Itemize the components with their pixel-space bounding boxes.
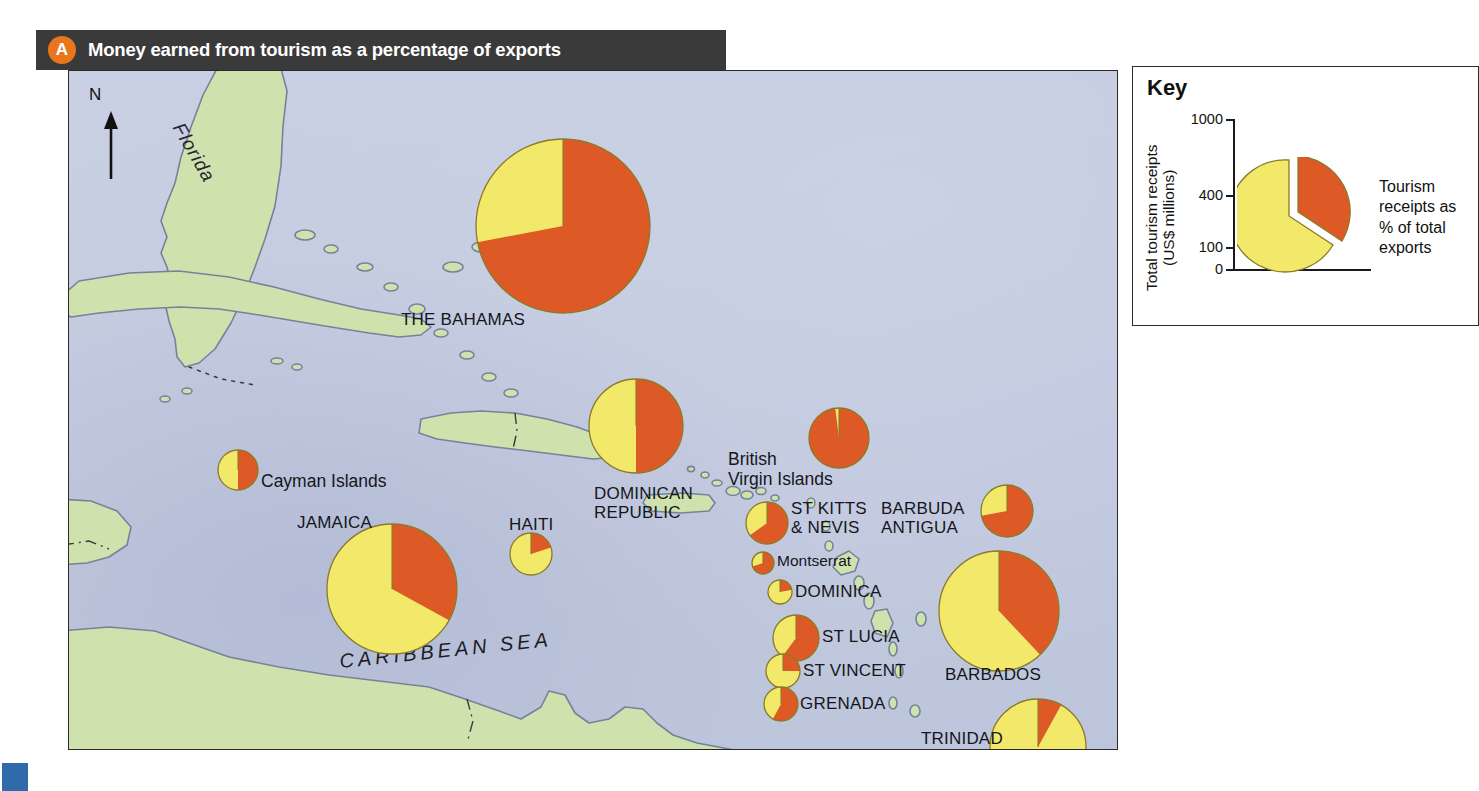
pie-cayman-islands [215,447,261,493]
pie-red-slice [238,450,258,490]
key-tick-1000 [1226,119,1235,121]
place-label-barbuda-antigua: BARBUDA ANTIGUA [881,499,965,538]
place-label-cayman-islands: Cayman Islands [261,472,386,492]
island-dot [504,389,518,397]
island-dot [434,329,448,337]
island-dot [295,230,315,240]
island-dot [324,245,338,253]
map-frame: N Florida CARIBBEAN SEA THE BAHAMASDOMIN… [68,70,1118,750]
key-tick-400 [1226,195,1235,197]
place-label-montserrat: Montserrat [777,552,851,570]
pie-st-kitts-nevis [743,499,791,547]
place-label-grenada: GRENADA [800,694,885,713]
key-ticklabel-0: 0 [1179,261,1223,277]
island-dot [916,612,926,626]
north-label: N [89,85,101,105]
figure-root: A Money earned from tourism as a percent… [0,0,1479,791]
key-axis-label: Total tourism receipts (US$ millions) [1143,123,1169,313]
place-label-the-bahamas: THE BAHAMAS [401,310,525,329]
island-dot [701,472,709,478]
island-dot [443,262,463,272]
pie-barbados [936,548,1062,674]
island-dot [357,263,373,271]
cuba-land [69,271,431,337]
key-panel: Key Total tourism receipts (US$ millions… [1132,66,1479,326]
key-title: Key [1147,75,1187,101]
page-corner-marker [2,763,28,791]
pie-jamaica [324,521,460,657]
place-label-trinidad-tobago: TRINIDAD & TOBAGO [921,729,1011,750]
island-dot [889,697,897,709]
place-label-haiti: HAITI [509,515,553,534]
island-dot [825,541,833,551]
island-dot [271,358,283,364]
island-dot [910,705,920,717]
island-dot [460,351,474,359]
florida-keys-dots [189,367,255,385]
island-dot [741,491,753,499]
island-dot [182,388,192,394]
figure-title-bar: A Money earned from tourism as a percent… [36,30,726,70]
pie-barbuda-antigua [978,482,1036,540]
place-label-jamaica: JAMAICA [297,513,372,532]
place-label-dominica: DOMINICA [795,582,882,601]
pie-haiti [507,530,555,578]
place-label-st-lucia: ST LUCIA [822,627,900,646]
island-dot [384,283,398,291]
central-america-land [69,499,131,565]
key-axis-label-line1: Total tourism receipts [1143,145,1160,291]
page-title: Money earned from tourism as a percentag… [88,39,561,61]
place-label-british-virgin-islands: British Virgin Islands [728,450,833,490]
pie-dominican-republic [586,376,686,476]
key-ticklabel-1000: 1000 [1179,111,1223,127]
place-label-st-vincent: ST VINCENT [803,661,906,680]
pie-montserrat [749,549,777,577]
place-label-dominican-republic: DOMINICAN REPUBLIC [594,484,693,523]
key-pie-sample [1237,157,1373,275]
island-dot [160,396,170,402]
key-ticklabel-100: 100 [1179,239,1223,255]
island-dot [292,364,302,370]
north-arrow-icon [91,101,131,181]
pie-the-bahamas [473,136,653,316]
florida-land [161,71,287,367]
key-ticklabel-400: 400 [1179,187,1223,203]
pie-grenada [761,684,801,724]
place-label-barbados: BARBADOS [945,665,1041,684]
place-label-st-kitts-nevis: ST KITTS & NEVIS [791,499,867,538]
pie-dominica [765,577,795,607]
key-slice-caption: Tourismreceipts as% of totalexports [1379,177,1456,259]
key-tick-0 [1226,269,1235,271]
island-dot [712,480,722,486]
key-axis-label-line2: (US$ millions) [1160,170,1177,266]
island-dot [482,373,496,381]
island-dot [688,466,695,471]
figure-badge: A [48,36,76,64]
key-tick-100 [1226,247,1235,249]
pie-red-slice [636,379,683,473]
